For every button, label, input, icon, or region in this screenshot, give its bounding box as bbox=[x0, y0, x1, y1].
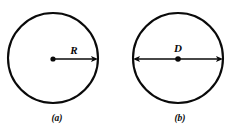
radius-label: R bbox=[69, 44, 77, 56]
circle-a-center-dot bbox=[50, 56, 55, 61]
circle-dimension-figure: R (a) D (b) bbox=[0, 0, 235, 129]
diameter-label: D bbox=[173, 42, 182, 54]
circle-b-center-dot bbox=[175, 56, 181, 62]
panel-a-caption: (a) bbox=[51, 113, 62, 124]
panel-b-caption: (b) bbox=[174, 113, 185, 124]
panel-a-group: R (a) bbox=[8, 13, 98, 124]
figure-container: R (a) D (b) bbox=[0, 0, 235, 129]
panel-b-group: D (b) bbox=[133, 13, 223, 124]
